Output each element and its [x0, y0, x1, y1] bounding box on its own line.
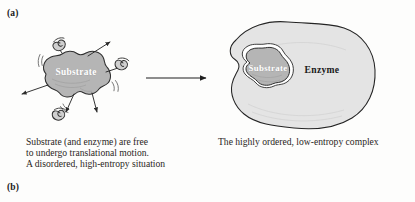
- right-scene-complex: Substrate Enzyme: [230, 22, 375, 129]
- caption-left: Substrate (and enzyme) are free to under…: [26, 136, 216, 170]
- substrate-label-left: Substrate: [55, 67, 96, 77]
- figure-artwork: Substrate: [0, 0, 415, 202]
- substrate-label-bound: Substrate: [249, 63, 288, 73]
- free-molecule-right: [114, 56, 130, 72]
- enzyme-label: Enzyme: [305, 64, 340, 75]
- free-molecule-lower-left: [52, 107, 66, 121]
- figure-enzyme-substrate-entropy: (a) (b): [0, 0, 415, 202]
- left-scene-free-substrate: Substrate: [22, 37, 130, 121]
- free-molecule-upper-left: [52, 37, 67, 52]
- caption-right: The highly ordered, low-entropy complex: [218, 136, 414, 147]
